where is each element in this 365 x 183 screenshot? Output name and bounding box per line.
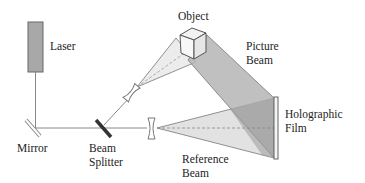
holographic-film xyxy=(274,97,278,159)
holographic-film-label-1: Holographic xyxy=(285,108,342,121)
splitter-to-object-lens-beam xyxy=(104,97,130,125)
diverging-lens-reference xyxy=(148,118,155,139)
holography-diagram: Laser Mirror Beam Splitter Object Pictur… xyxy=(0,0,365,183)
object-cube xyxy=(180,28,206,59)
laser-label: Laser xyxy=(50,40,76,52)
diverging-lens-object xyxy=(123,84,140,102)
mirror-label: Mirror xyxy=(17,142,48,154)
holographic-film-label-2: Film xyxy=(285,122,307,134)
picture-beam-label-2: Beam xyxy=(246,54,273,66)
reference-beam-label-2: Beam xyxy=(182,167,209,179)
beam-splitter-label-1: Beam xyxy=(89,142,116,154)
picture-beam-label-1: Picture xyxy=(246,40,279,52)
reference-beam-label-1: Reference xyxy=(182,153,229,165)
beam-splitter-label-2: Splitter xyxy=(89,156,123,169)
laser xyxy=(28,22,43,72)
object-label: Object xyxy=(178,10,209,23)
